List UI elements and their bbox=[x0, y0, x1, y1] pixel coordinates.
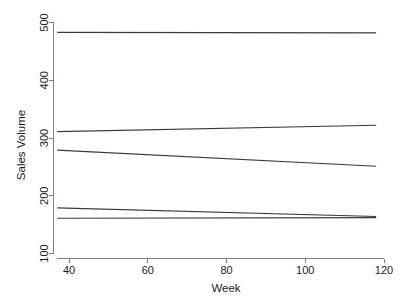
x-tick-label-40: 40 bbox=[63, 264, 75, 276]
data-line-1 bbox=[57, 32, 376, 33]
chart-background bbox=[0, 0, 405, 299]
x-axis-title: Week bbox=[211, 282, 240, 294]
y-tick-label-200: 200 bbox=[38, 187, 50, 205]
y-axis-title: Sales Volume bbox=[15, 110, 27, 180]
chart-container: 500 400 300 200 100 Sales Volume 40 60 8… bbox=[0, 0, 405, 299]
y-tick-label-300: 300 bbox=[38, 129, 50, 147]
x-tick-label-80: 80 bbox=[220, 264, 232, 276]
line-chart-svg: 500 400 300 200 100 Sales Volume 40 60 8… bbox=[0, 0, 405, 299]
data-line-5 bbox=[57, 218, 376, 219]
x-tick-label-60: 60 bbox=[142, 264, 154, 276]
x-tick-label-120: 120 bbox=[375, 264, 393, 276]
y-tick-label-100: 100 bbox=[38, 244, 50, 262]
y-tick-label-500: 500 bbox=[38, 13, 50, 31]
x-tick-label-100: 100 bbox=[296, 264, 314, 276]
y-tick-label-400: 400 bbox=[38, 71, 50, 89]
